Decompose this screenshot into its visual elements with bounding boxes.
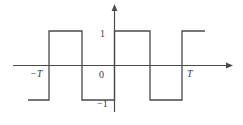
x-axis-label-positive-period: T: [187, 69, 193, 79]
y-axis-label-amplitude-high: 1: [100, 29, 105, 39]
square-wave-figure: −T T 1 0 −1: [0, 0, 243, 125]
x-axis-label-negative-period: −T: [30, 69, 42, 79]
plot-canvas: [0, 0, 243, 125]
x-axis-arrow-icon: [226, 63, 233, 69]
y-axis-arrow-icon: [112, 4, 118, 11]
origin-label: 0: [99, 70, 104, 80]
y-axis-label-amplitude-low: −1: [97, 99, 108, 109]
